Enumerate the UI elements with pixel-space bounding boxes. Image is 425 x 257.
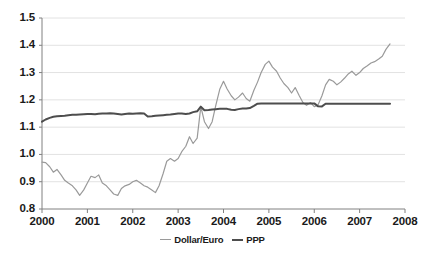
x-axis-tick-label: 2001 [67, 215, 107, 227]
legend-item-dollar-euro[interactable]: Dollar/Euro [160, 234, 223, 245]
chart-container: 0.80.91.01.11.21.31.41.5 200020012002200… [0, 0, 425, 257]
y-axis-tick-label: 1.2 [5, 93, 35, 105]
y-axis-tick-label: 1.3 [5, 66, 35, 78]
legend-label-ppp: PPP [246, 234, 264, 245]
x-axis-tick-label: 2007 [340, 215, 380, 227]
y-axis-tick-label: 1.0 [5, 147, 35, 159]
y-axis-tick-label: 1.5 [5, 11, 35, 23]
gridlines [42, 18, 405, 182]
x-axis-tick-label: 2000 [22, 215, 62, 227]
x-axis-tick-label: 2003 [158, 215, 198, 227]
x-axis-tick-label: 2006 [294, 215, 334, 227]
x-axis-tick-label: 2008 [385, 215, 425, 227]
legend-swatch-dollar-euro [160, 239, 171, 240]
y-axis-tick-label: 0.9 [5, 175, 35, 187]
x-axis-tick-label: 2005 [249, 215, 289, 227]
legend-item-ppp[interactable]: PPP [232, 234, 264, 245]
y-axis-tick-label: 0.8 [5, 202, 35, 214]
legend-label-dollar-euro: Dollar/Euro [174, 234, 223, 245]
x-axis-tick-label: 2002 [113, 215, 153, 227]
y-axis-tick-label: 1.1 [5, 120, 35, 132]
series-lines [42, 44, 390, 195]
x-axis-tick-label: 2004 [204, 215, 244, 227]
x-axis-ticks [42, 209, 405, 213]
series-line-dollar-euro [42, 44, 390, 195]
y-axis-tick-label: 1.4 [5, 38, 35, 50]
chart-legend: Dollar/Euro PPP [0, 234, 425, 245]
legend-swatch-ppp [232, 239, 243, 241]
